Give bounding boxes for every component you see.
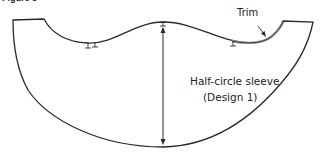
trim-label: Trim <box>237 7 258 18</box>
trim-arrow-head-icon <box>261 31 266 37</box>
trim-line <box>232 22 283 43</box>
arrow-down-icon <box>161 139 166 145</box>
sleeve-label-design: (Design 1) <box>203 91 257 103</box>
arrow-up-icon <box>161 27 166 33</box>
sleeve-label-title: Half-circle sleeve <box>190 75 279 87</box>
sleeve-pattern-diagram <box>0 0 332 159</box>
